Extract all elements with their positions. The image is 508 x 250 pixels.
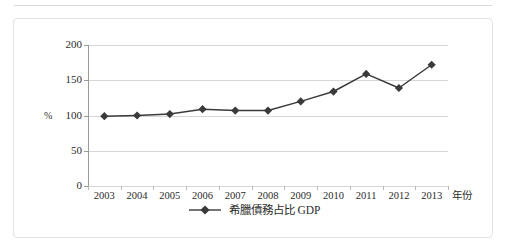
y-tick-mark <box>84 151 88 152</box>
y-tick-label-wrap: 100 <box>44 110 82 121</box>
y-tick-mark <box>84 45 88 46</box>
y-tick-label-wrap: 150 <box>44 74 82 85</box>
y-tick-label-wrap: 0 <box>44 180 82 191</box>
gridline-y <box>88 151 448 152</box>
y-tick-mark <box>84 80 88 81</box>
y-tick-label-wrap: 200 <box>44 39 82 50</box>
gridline-y <box>88 186 448 187</box>
gridline-y <box>88 116 448 117</box>
y-tick-label: 50 <box>48 145 82 156</box>
y-tick-label: 0 <box>48 180 82 191</box>
legend-label: 希臘債務占比 GDP <box>229 203 321 217</box>
x-tick-mark <box>448 186 449 190</box>
y-axis-line <box>88 45 89 186</box>
y-tick-label-wrap: 50 <box>44 145 82 156</box>
y-tick-label: 150 <box>48 74 82 85</box>
legend-line-marker-icon <box>188 204 222 216</box>
y-tick-label: 100 <box>48 110 82 121</box>
x-tick-label: 2013 <box>412 190 452 202</box>
gridline-y <box>88 45 448 46</box>
y-tick-mark <box>84 116 88 117</box>
y-tick-label: 200 <box>48 39 82 50</box>
plot-area <box>88 45 448 185</box>
chart-legend: 希臘債務占比 GDP <box>0 203 508 217</box>
top-divider-rule <box>14 5 492 6</box>
x-axis-title: 年份 <box>452 190 472 202</box>
gridline-y <box>88 80 448 81</box>
